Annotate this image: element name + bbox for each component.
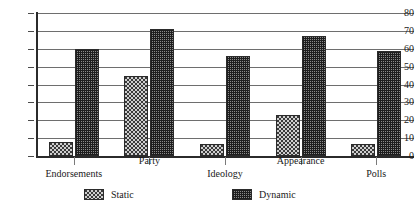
- x-tick-mark: [74, 157, 75, 165]
- bar-group: [276, 13, 326, 156]
- bar-group: [351, 13, 401, 156]
- bar-static: [124, 76, 148, 156]
- bar-dynamic: [150, 29, 174, 156]
- y-tick-mark-20: [28, 120, 34, 121]
- x-label-party: Party: [99, 155, 199, 166]
- bar-group: [124, 13, 174, 156]
- bar-dynamic: [302, 36, 326, 156]
- y-tick-mark-50: [28, 67, 34, 68]
- bar-static: [200, 144, 224, 157]
- x-label-endorsements: Endorsements: [24, 168, 124, 179]
- bars-layer: [36, 13, 414, 156]
- x-label-polls: Polls: [326, 168, 419, 179]
- legend-label-dynamic: Dynamic: [259, 189, 296, 200]
- y-tick-mark-10: [28, 138, 34, 139]
- bar-dynamic: [377, 51, 401, 156]
- legend-item-dynamic[interactable]: Dynamic: [232, 189, 296, 200]
- y-tick-mark-30: [28, 102, 34, 103]
- bar-static: [276, 115, 300, 156]
- legend-label-static: Static: [111, 189, 134, 200]
- bar-group: [49, 13, 99, 156]
- legend-swatch-static: [84, 189, 104, 200]
- legend-swatch-dynamic: [232, 189, 252, 200]
- y-tick-mark-60: [28, 49, 34, 50]
- legend-item-static[interactable]: Static: [84, 189, 134, 200]
- x-tick-mark: [376, 157, 377, 165]
- bar-group: [200, 13, 250, 156]
- x-label-appearance: Appearance: [251, 155, 351, 166]
- bar-static: [351, 144, 375, 157]
- y-tick-mark-40: [28, 85, 34, 86]
- bar-static: [49, 142, 73, 156]
- chart-legend: StaticDynamic: [0, 186, 414, 208]
- bar-dynamic: [226, 56, 250, 156]
- x-label-ideology: Ideology: [175, 168, 275, 179]
- bar-dynamic: [75, 49, 99, 156]
- x-tick-mark: [225, 157, 226, 165]
- y-tick-mark-80: [28, 13, 34, 14]
- y-tick-mark-70: [28, 31, 34, 32]
- y-tick-mark-0: [28, 156, 34, 157]
